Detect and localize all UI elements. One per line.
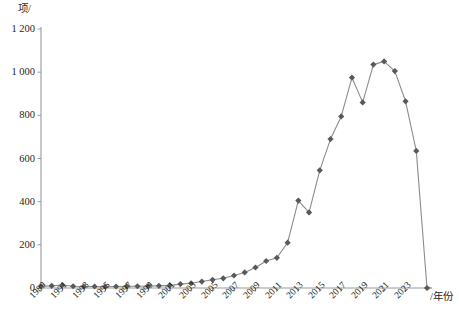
data-point-marker [231, 272, 237, 278]
data-point-marker [424, 285, 430, 291]
y-axis-tick-label: 1 000 [11, 67, 35, 78]
y-axis-tick-label: 200 [19, 240, 35, 251]
chart-container: 项/ /年份 02004006008001 0001 200 198919911… [0, 0, 459, 329]
data-point-marker [242, 269, 248, 275]
y-axis-tick-label: 800 [19, 110, 35, 121]
data-point-markers [38, 58, 430, 291]
data-point-marker [327, 136, 333, 142]
data-point-marker [199, 278, 205, 284]
data-point-marker [402, 98, 408, 104]
data-point-marker [252, 264, 258, 270]
data-point-marker [317, 167, 323, 173]
data-series-group [38, 58, 430, 291]
data-point-marker [220, 275, 226, 281]
line-chart-plot [0, 0, 459, 329]
data-point-marker [370, 62, 376, 68]
data-point-marker [360, 99, 366, 105]
y-axis-tick-label: 600 [19, 154, 35, 165]
y-axis-tick-label: 400 [19, 197, 35, 208]
data-point-marker [338, 113, 344, 119]
data-point-marker [413, 148, 419, 154]
data-point-marker [349, 74, 355, 80]
series-line [41, 61, 427, 288]
y-axis-tick-label: 1 200 [11, 24, 35, 35]
data-point-marker [263, 258, 269, 264]
